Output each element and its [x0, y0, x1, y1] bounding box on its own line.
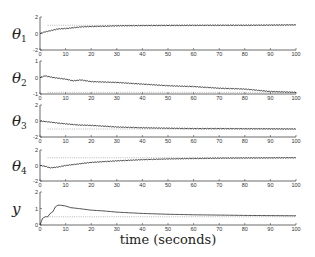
x-tick-label: 100: [291, 51, 300, 57]
y-tick-label: 2: [35, 14, 38, 20]
y-tick-label: 1: [35, 58, 38, 64]
panel-ylabel-subscript: 2: [21, 78, 27, 88]
x-tick-label: 10: [63, 95, 69, 101]
x-tick-label: 10: [63, 182, 69, 188]
x-tick-label: 20: [88, 95, 94, 101]
x-tick-label: 60: [191, 95, 197, 101]
x-tick-label: 90: [267, 138, 273, 144]
panel-ylabel: θ: [12, 69, 21, 87]
y-tick-label: -2: [33, 134, 38, 140]
x-tick-label: 80: [242, 138, 248, 144]
x-tick-label: 20: [88, 138, 94, 144]
y-tick-label: 0: [35, 31, 38, 37]
x-tick-label: 60: [191, 182, 197, 188]
panel-ylabel: y: [11, 200, 21, 218]
stacked-time-series-chart: -2020102030405060708090100θ1-10101020304…: [0, 0, 315, 257]
x-tick-label: 80: [242, 95, 248, 101]
x-tick-label: 40: [139, 138, 145, 144]
x-tick-label: 50: [165, 95, 171, 101]
x-tick-label: 70: [216, 95, 222, 101]
x-tick-label: 40: [139, 51, 145, 57]
y-tick-label: -2: [33, 178, 38, 184]
x-tick-label: 70: [216, 182, 222, 188]
panel-ylabel: θ: [12, 157, 21, 175]
series-line: [40, 121, 296, 130]
x-tick-label: 10: [63, 226, 69, 232]
x-tick-label: 90: [267, 95, 273, 101]
x-tick-label: 90: [267, 182, 273, 188]
y-tick-label: 0: [35, 118, 38, 124]
x-tick-label: 90: [267, 51, 273, 57]
x-tick-label: 60: [191, 138, 197, 144]
x-tick-label: 90: [267, 226, 273, 232]
x-tick-label: 20: [88, 226, 94, 232]
x-tick-label: 20: [88, 51, 94, 57]
x-tick-label: 80: [242, 182, 248, 188]
panel-ylabel-subscript: 4: [21, 166, 27, 176]
x-tick-label: 100: [291, 95, 300, 101]
x-tick-label: 70: [216, 226, 222, 232]
panel-ylabel: θ: [12, 25, 21, 43]
x-tick-label: 0: [38, 51, 41, 57]
series-line: [40, 157, 296, 168]
x-tick-label: 50: [165, 51, 171, 57]
x-tick-label: 40: [139, 182, 145, 188]
x-tick-label: 60: [191, 51, 197, 57]
x-tick-label: 100: [291, 138, 300, 144]
x-tick-label: 30: [114, 95, 120, 101]
panel-ylabel-subscript: 3: [21, 121, 27, 131]
x-tick-label: 100: [291, 226, 300, 232]
y-tick-label: -2: [33, 47, 38, 53]
series-line: [40, 76, 296, 93]
x-tick-label: 70: [216, 138, 222, 144]
series-line: [40, 205, 296, 225]
y-tick-label: 2: [35, 147, 38, 153]
x-tick-label: 30: [114, 182, 120, 188]
x-tick-label: 80: [242, 51, 248, 57]
x-tick-label: 70: [216, 51, 222, 57]
y-tick-label: 2: [35, 102, 38, 108]
x-tick-label: 50: [165, 182, 171, 188]
x-tick-label: 20: [88, 182, 94, 188]
x-tick-label: 0: [38, 95, 41, 101]
x-tick-label: 40: [139, 95, 145, 101]
panel-ylabel: θ: [12, 112, 21, 130]
y-tick-label: 0: [35, 163, 38, 169]
y-tick-label: -1: [33, 91, 38, 97]
x-tick-label: 0: [38, 182, 41, 188]
x-tick-label: 50: [165, 138, 171, 144]
x-axis-title: time (seconds): [120, 232, 217, 247]
x-tick-label: 10: [63, 138, 69, 144]
x-tick-label: 100: [291, 182, 300, 188]
y-tick-label: 0: [35, 75, 38, 81]
x-tick-label: 0: [38, 226, 41, 232]
y-tick-label: 2: [35, 189, 38, 195]
x-tick-label: 30: [114, 51, 120, 57]
x-tick-label: 10: [63, 51, 69, 57]
series-line: [40, 25, 296, 34]
x-tick-label: 30: [114, 138, 120, 144]
panel-ylabel-subscript: 1: [21, 34, 27, 44]
y-tick-label: 1: [35, 206, 38, 212]
x-tick-label: 0: [38, 138, 41, 144]
x-tick-label: 80: [242, 226, 248, 232]
